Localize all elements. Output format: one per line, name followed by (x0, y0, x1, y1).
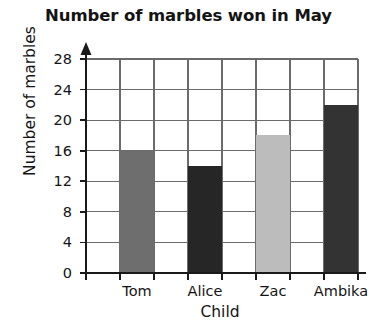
y-tick-label: 0 (38, 266, 72, 281)
plot-area (0, 0, 377, 331)
bar-ambika (324, 105, 358, 273)
y-tick-label: 20 (38, 113, 72, 128)
y-tick-label: 4 (38, 235, 72, 250)
y-tick-label: 12 (38, 174, 72, 189)
bars-group (120, 105, 358, 273)
x-tick-label-ambika: Ambika (296, 284, 377, 299)
bar-chart-figure: Number of marbles won in May Number of m… (0, 0, 377, 331)
bar-zac (256, 135, 290, 273)
bar-tom (120, 151, 154, 273)
y-tick-label: 24 (38, 83, 72, 98)
y-axis-arrow-icon (81, 42, 92, 55)
bar-alice (188, 166, 222, 273)
y-tick-label: 8 (38, 205, 72, 220)
y-tick-label: 28 (38, 52, 72, 67)
y-tick-label: 16 (38, 144, 72, 159)
